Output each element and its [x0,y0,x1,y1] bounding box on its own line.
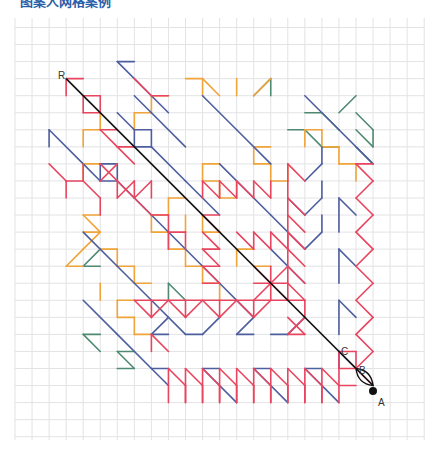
blue-stroke [339,249,356,266]
red-stroke [288,198,305,215]
red-stroke [254,283,271,300]
red-stroke [134,79,151,96]
red-stroke [186,369,203,386]
red-stroke [288,215,305,232]
red-stroke [186,300,203,317]
blue-stroke [151,369,168,386]
red-stroke [356,198,373,215]
red-stroke [356,317,373,334]
point-a-dot [369,387,377,395]
red-stroke [271,369,288,386]
red-stroke [356,232,373,249]
blue-stroke [305,164,322,181]
blue-stroke [83,164,100,181]
red-stroke [134,181,151,198]
red-stroke [356,181,373,198]
red-stroke [168,369,185,386]
red-stroke [134,300,151,317]
green-stroke [83,249,100,266]
red-stroke [134,198,151,215]
red-stroke [322,369,339,386]
red-stroke [288,164,305,181]
green-stroke [117,351,134,368]
red-stroke [305,369,322,386]
green-stroke [356,130,373,147]
red-stroke [254,300,271,317]
red-stroke [168,300,185,317]
red-stroke [100,130,117,147]
red-stroke [151,334,168,351]
red-stroke [356,215,373,232]
point-labels: RCBA [58,70,385,408]
orange-stroke [66,249,83,266]
red-stroke [356,334,373,351]
red-stroke [220,300,237,317]
label-b: B [359,365,366,376]
orange-stroke [83,215,100,232]
green-stroke [83,334,100,351]
green-stroke [356,113,373,130]
red-stroke [356,164,373,181]
red-stroke [117,147,134,164]
blue-stroke [151,317,168,334]
red-stroke [356,300,373,317]
red-stroke [356,249,373,266]
blue-stroke [305,232,322,249]
blue-stroke [237,317,254,334]
blue-stroke [134,96,151,113]
red-stroke [271,266,288,283]
orange-stroke [254,79,271,96]
red-stroke [203,369,220,386]
red-stroke [203,181,220,198]
green-stroke [305,130,322,147]
red-stroke [356,283,373,300]
red-stroke [288,369,305,386]
red-stroke [203,232,220,249]
label-a: A [378,397,385,408]
red-stroke [220,181,237,198]
red-stroke [203,266,220,283]
blue-stroke [117,113,134,130]
red-stroke [237,181,254,198]
red-stroke [356,266,373,283]
green-stroke [168,283,185,300]
red-stroke [237,300,254,317]
red-stroke [254,369,271,386]
label-r: R [58,70,65,81]
red-stroke [254,232,271,249]
red-stroke [237,232,254,249]
label-c: C [341,346,348,357]
red-stroke [237,369,254,386]
red-stroke [288,232,305,249]
blue-stroke [203,317,220,334]
red-stroke [220,369,237,386]
red-stroke [203,300,220,317]
red-stroke [49,164,66,181]
blue-stroke [339,198,356,215]
red-stroke [288,249,305,266]
grid-pattern-diagram: RCBA [0,0,432,452]
red-stroke [83,181,100,198]
blue-stroke [305,198,322,215]
red-stroke [203,249,220,266]
blue-stroke [339,300,356,317]
main-diagonal-path [66,79,377,395]
red-stroke [288,283,305,300]
orange-stroke [203,79,220,96]
green-stroke [339,96,356,113]
red-stroke [254,181,271,198]
blue-stroke [151,96,168,113]
red-stroke [271,232,288,249]
red-stroke [288,266,305,283]
